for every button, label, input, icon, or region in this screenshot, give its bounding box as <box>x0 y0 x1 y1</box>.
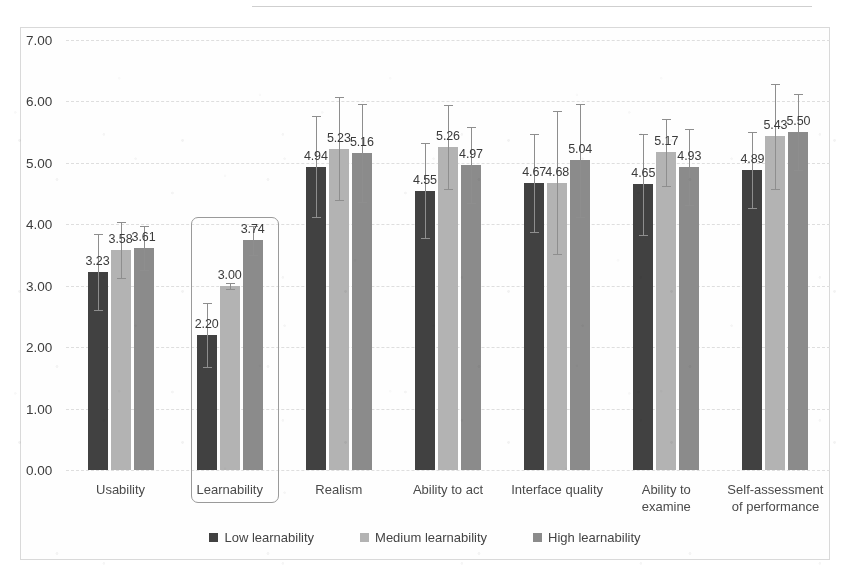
legend-label: High learnability <box>548 530 641 545</box>
legend-label: Low learnability <box>224 530 314 545</box>
legend-item-medium-learnability: Medium learnability <box>360 530 487 545</box>
legend-label: Medium learnability <box>375 530 487 545</box>
chart-plot-frame <box>20 27 830 560</box>
legend-swatch-icon <box>360 533 369 542</box>
legend-item-low-learnability: Low learnability <box>209 530 314 545</box>
page-top-rule <box>252 6 812 7</box>
legend-swatch-icon <box>533 533 542 542</box>
legend-item-high-learnability: High learnability <box>533 530 641 545</box>
legend-swatch-icon <box>209 533 218 542</box>
chart-legend: Low learnability Medium learnability Hig… <box>20 530 830 545</box>
